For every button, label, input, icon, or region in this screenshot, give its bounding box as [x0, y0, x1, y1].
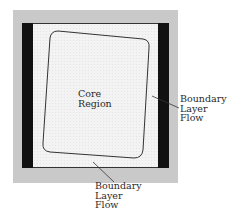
right-label-line-3: Flow: [180, 113, 227, 123]
right-wall-bar: [158, 23, 169, 168]
right-boundary-layer-label: Boundary Layer Flow: [180, 94, 227, 123]
flow-diagram: Core Region Boundary Layer Flow Boundary…: [0, 0, 236, 221]
bottom-label-line-3: Flow: [95, 200, 142, 210]
left-wall-bar: [22, 23, 33, 168]
core-label-line-2: Region: [78, 99, 112, 109]
core-region-label: Core Region: [78, 89, 112, 108]
bottom-boundary-layer-label: Boundary Layer Flow: [95, 181, 142, 210]
